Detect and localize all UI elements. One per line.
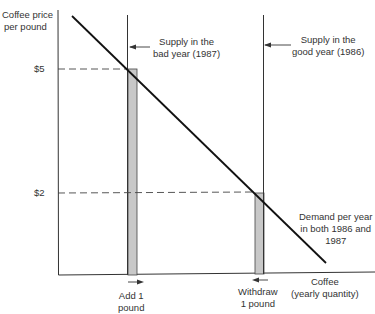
y-axis-label: Coffee price per pound bbox=[2, 9, 53, 33]
demand-label-line2: in both 1986 and bbox=[299, 223, 372, 235]
bad-supply-label-line2: bad year (1987) bbox=[153, 48, 220, 60]
good-supply-label-line1: Supply in the bbox=[292, 34, 364, 46]
add-pound-label-line2: pound bbox=[118, 302, 144, 314]
withdraw-pound-label-line1: Withdraw bbox=[238, 286, 278, 298]
add-pound-label-line1: Add 1 bbox=[118, 290, 144, 302]
y-axis-label-line1: Coffee price bbox=[2, 9, 53, 21]
x-axis-label-line1: Coffee bbox=[291, 276, 359, 288]
demand-label-line1: Demand per year bbox=[299, 211, 372, 223]
demand-label: Demand per year in both 1986 and 1987 bbox=[299, 211, 372, 247]
price-2-dashed-line bbox=[58, 192, 255, 193]
withdraw-pound-bar bbox=[255, 193, 264, 274]
add-arrowhead-icon bbox=[137, 280, 144, 285]
x-axis-label-line2: (yearly quantity) bbox=[291, 288, 359, 300]
bad-supply-arrowhead-icon bbox=[129, 45, 136, 50]
add-pound-label: Add 1 pound bbox=[118, 290, 144, 314]
x-axis-label: Coffee (yearly quantity) bbox=[291, 276, 359, 300]
bad-supply-label: Supply in the bad year (1987) bbox=[153, 36, 220, 60]
good-supply-label: Supply in the good year (1986) bbox=[292, 34, 364, 58]
tick-label-2: $2 bbox=[34, 187, 45, 199]
x-axis bbox=[59, 272, 375, 275]
bad-supply-label-line1: Supply in the bbox=[153, 36, 220, 48]
y-axis bbox=[58, 10, 59, 275]
add-pound-bar bbox=[128, 69, 137, 275]
good-supply-arrowhead-icon bbox=[264, 43, 271, 48]
withdraw-pound-label: Withdraw 1 pound bbox=[238, 286, 278, 310]
tick-label-5: $5 bbox=[34, 63, 45, 75]
withdraw-arrowhead-icon bbox=[252, 278, 259, 283]
good-supply-label-line2: good year (1986) bbox=[292, 46, 364, 58]
y-axis-label-line2: per pound bbox=[2, 21, 53, 33]
demand-label-line3: 1987 bbox=[299, 235, 372, 247]
withdraw-pound-label-line2: 1 pound bbox=[238, 298, 278, 310]
